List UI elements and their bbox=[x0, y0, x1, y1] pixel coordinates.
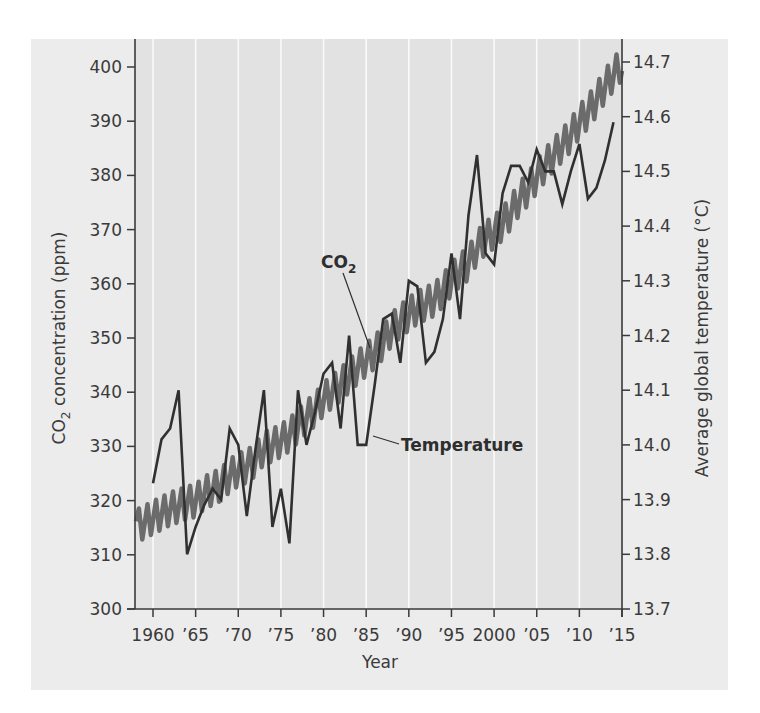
left-axis-ticks: 300310320330340350360370380390400 bbox=[90, 57, 135, 619]
right-tick-label: 13.7 bbox=[633, 599, 671, 619]
left-axis-title-rest: concentration (ppm) bbox=[49, 232, 69, 412]
x-tick-label: ’75 bbox=[267, 625, 294, 645]
left-tick-label: 300 bbox=[90, 599, 122, 619]
right-tick-label: 13.9 bbox=[633, 490, 671, 510]
x-axis-title: Year bbox=[361, 652, 398, 672]
x-tick-label: ’70 bbox=[225, 625, 252, 645]
co2-label-subscript: 2 bbox=[348, 262, 356, 276]
right-tick-label: 14.2 bbox=[633, 326, 671, 346]
right-tick-label: 14.7 bbox=[633, 52, 671, 72]
right-tick-label: 14.3 bbox=[633, 271, 671, 291]
left-tick-label: 390 bbox=[90, 111, 122, 131]
x-tick-label: ’90 bbox=[395, 625, 422, 645]
right-tick-label: 14.4 bbox=[633, 216, 671, 236]
right-axis-title: Average global temperature (°C) bbox=[692, 199, 712, 477]
right-tick-label: 14.5 bbox=[633, 161, 671, 181]
plot-area bbox=[135, 39, 622, 609]
right-tick-label: 14.6 bbox=[633, 107, 671, 127]
left-tick-label: 380 bbox=[90, 165, 122, 185]
temperature-series-label: Temperature bbox=[401, 435, 523, 455]
x-tick-label: 1960 bbox=[131, 625, 174, 645]
x-axis-ticks: 1960’65’70’75’80’85’90’952000’05’10’15 bbox=[131, 609, 635, 645]
x-tick-label: ’65 bbox=[182, 625, 209, 645]
x-tick-label: ’80 bbox=[310, 625, 337, 645]
x-tick-label: ’10 bbox=[566, 625, 593, 645]
co2-label-text: CO bbox=[321, 252, 348, 272]
x-tick-label: ’85 bbox=[353, 625, 380, 645]
x-tick-label: ’15 bbox=[608, 625, 635, 645]
left-axis-title-sub: 2 bbox=[59, 412, 73, 420]
left-tick-label: 320 bbox=[90, 491, 122, 511]
left-axis-title: CO2 concentration (ppm) bbox=[49, 232, 73, 445]
left-tick-label: 350 bbox=[90, 328, 122, 348]
left-tick-label: 340 bbox=[90, 382, 122, 402]
left-tick-label: 360 bbox=[90, 274, 122, 294]
right-tick-label: 14.1 bbox=[633, 380, 671, 400]
x-tick-label: ’95 bbox=[438, 625, 465, 645]
right-tick-label: 14.0 bbox=[633, 435, 671, 455]
left-tick-label: 400 bbox=[90, 57, 122, 77]
left-tick-label: 370 bbox=[90, 220, 122, 240]
right-axis-ticks: 13.713.813.914.014.114.214.314.414.514.6… bbox=[622, 52, 671, 619]
co2-temperature-chart: 300310320330340350360370380390400 13.713… bbox=[0, 0, 760, 713]
right-tick-label: 13.8 bbox=[633, 544, 671, 564]
x-tick-label: 2000 bbox=[472, 625, 515, 645]
x-tick-label: ’05 bbox=[523, 625, 550, 645]
left-axis-title-co: CO bbox=[49, 419, 69, 444]
left-tick-label: 310 bbox=[90, 545, 122, 565]
left-tick-label: 330 bbox=[90, 436, 122, 456]
